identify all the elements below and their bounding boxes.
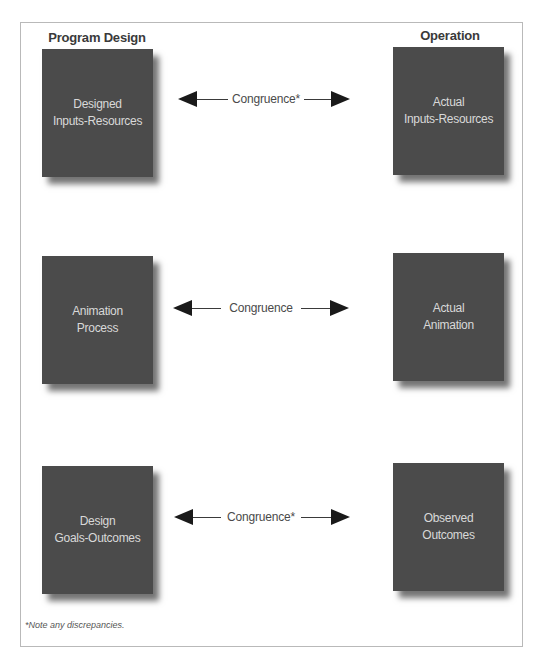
- congruence-label: Congruence*: [221, 510, 301, 524]
- arrow-right-icon: [331, 91, 350, 107]
- box-designed-inputs-resources: Designed Inputs-Resources: [42, 49, 153, 177]
- box-actual-inputs-resources: Actual Inputs-Resources: [393, 47, 504, 175]
- congruence-link-inputs: Congruence*: [178, 89, 368, 109]
- footnote: *Note any discrepancies.: [25, 620, 125, 630]
- box-observed-outcomes: Observed Outcomes: [393, 463, 504, 591]
- arrow-shaft: [192, 308, 221, 309]
- arrow-shaft: [304, 99, 331, 100]
- arrow-shaft: [193, 517, 221, 518]
- box-animation-process: Animation Process: [42, 256, 153, 384]
- column-header-program-design: Program Design: [44, 30, 150, 45]
- arrow-shaft: [301, 308, 330, 309]
- box-design-goals-outcomes: Design Goals-Outcomes: [42, 466, 153, 594]
- arrow-shaft: [197, 99, 228, 100]
- arrow-right-icon: [330, 300, 349, 316]
- arrow-left-icon: [178, 91, 197, 107]
- congruence-label: Congruence: [221, 301, 301, 315]
- arrow-right-icon: [331, 509, 350, 525]
- arrow-left-icon: [174, 509, 193, 525]
- box-actual-animation: Actual Animation: [393, 253, 504, 381]
- congruence-link-animation: Congruence: [173, 298, 349, 318]
- column-header-operation: Operation: [400, 28, 500, 43]
- arrow-left-icon: [173, 300, 192, 316]
- arrow-shaft: [301, 517, 331, 518]
- congruence-link-outcomes: Congruence*: [174, 507, 370, 527]
- congruence-label: Congruence*: [228, 92, 304, 106]
